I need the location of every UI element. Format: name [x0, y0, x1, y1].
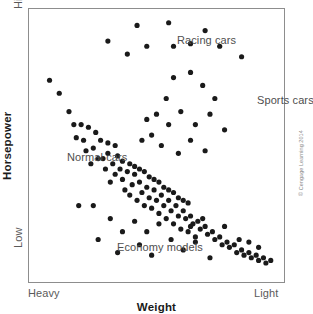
- x-axis-heavy-label: Heavy: [28, 287, 60, 299]
- x-axis-light-label: Light: [254, 287, 278, 299]
- data-point: [186, 200, 191, 205]
- data-point: [161, 203, 166, 208]
- data-point: [241, 253, 246, 258]
- data-point: [183, 216, 188, 221]
- data-point: [249, 255, 254, 260]
- data-point: [154, 112, 159, 117]
- data-point: [122, 187, 127, 192]
- data-point: [139, 138, 144, 143]
- data-point: [178, 226, 183, 231]
- data-point: [149, 206, 154, 211]
- data-point: [186, 229, 191, 234]
- data-point: [66, 109, 71, 114]
- data-point: [117, 166, 122, 171]
- data-point: [91, 203, 96, 208]
- data-point: [166, 122, 171, 127]
- data-point: [173, 203, 178, 208]
- data-point: [198, 226, 203, 231]
- y-axis-low-label: Low: [12, 228, 24, 248]
- data-point: [188, 138, 193, 143]
- data-point: [149, 132, 154, 137]
- data-point: [108, 216, 113, 221]
- data-point: [207, 255, 212, 260]
- data-point: [181, 208, 186, 213]
- y-axis-high-label: High: [12, 0, 24, 9]
- data-point: [134, 23, 139, 28]
- annotation-economy-models: Economy models: [117, 241, 203, 253]
- data-point: [108, 179, 113, 184]
- data-point: [96, 237, 101, 242]
- data-point: [147, 195, 152, 200]
- y-axis-title: Horsepower: [1, 112, 13, 180]
- data-point: [193, 234, 198, 239]
- data-point: [188, 70, 193, 75]
- data-point: [161, 185, 166, 190]
- data-point: [142, 169, 147, 174]
- data-point: [171, 44, 176, 49]
- data-point: [171, 75, 176, 80]
- data-point: [176, 195, 181, 200]
- data-point: [159, 193, 164, 198]
- data-point: [254, 253, 259, 258]
- data-point: [188, 224, 193, 229]
- data-point: [130, 182, 135, 187]
- data-point: [91, 146, 96, 151]
- data-point: [154, 198, 159, 203]
- data-point: [98, 138, 103, 143]
- data-point: [127, 161, 132, 166]
- data-point: [217, 234, 222, 239]
- data-point: [71, 122, 76, 127]
- plot-frame: Racing cars Sports cars Normal cars Econ…: [28, 8, 285, 283]
- data-point: [156, 179, 161, 184]
- data-point: [178, 109, 183, 114]
- data-point: [142, 203, 147, 208]
- data-point: [263, 260, 268, 265]
- data-point: [149, 253, 154, 258]
- data-point: [81, 138, 86, 143]
- data-point: [203, 224, 208, 229]
- data-point: [246, 240, 251, 245]
- data-point: [103, 166, 108, 171]
- data-point: [105, 140, 110, 145]
- data-point: [210, 229, 215, 234]
- data-point: [239, 247, 244, 252]
- data-point: [256, 258, 261, 263]
- scatter-plot-figure: High Low Horsepower Heavy Light Weight R…: [0, 0, 313, 314]
- data-point: [144, 117, 149, 122]
- data-point: [151, 177, 156, 182]
- data-point: [200, 83, 205, 88]
- series-sports-cars: [139, 70, 227, 156]
- data-point: [164, 96, 169, 101]
- data-point: [237, 237, 242, 242]
- data-point: [256, 245, 261, 250]
- data-point: [156, 221, 161, 226]
- data-point: [47, 78, 52, 83]
- data-point: [144, 185, 149, 190]
- data-point: [169, 208, 174, 213]
- data-point: [207, 112, 212, 117]
- data-point: [120, 229, 125, 234]
- data-point: [132, 172, 137, 177]
- data-point: [268, 258, 273, 263]
- data-point: [127, 193, 132, 198]
- data-point: [205, 232, 210, 237]
- data-point: [176, 213, 181, 218]
- data-point: [125, 52, 130, 57]
- data-point: [132, 219, 137, 224]
- data-point: [224, 240, 229, 245]
- data-point: [134, 198, 139, 203]
- data-point: [120, 177, 125, 182]
- data-point: [188, 213, 193, 218]
- data-point: [166, 187, 171, 192]
- data-point: [125, 169, 130, 174]
- data-point: [79, 122, 84, 127]
- data-point: [159, 143, 164, 148]
- data-point: [195, 219, 200, 224]
- data-point: [57, 91, 62, 96]
- data-point: [137, 179, 142, 184]
- data-point: [151, 187, 156, 192]
- data-point: [171, 190, 176, 195]
- annotation-sports-cars: Sports cars: [257, 94, 313, 106]
- data-point: [212, 96, 217, 101]
- data-point: [234, 250, 239, 255]
